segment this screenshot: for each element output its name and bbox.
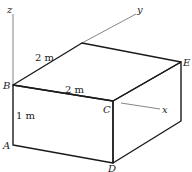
height-dimension-label: 1 m <box>16 110 36 121</box>
z-axis-label: z <box>6 4 13 15</box>
box-diagram: z y x B A C D E 2 m 2 m 1 m <box>0 0 192 172</box>
right-face <box>113 62 181 163</box>
point-d-label: D <box>107 163 116 172</box>
point-b-label: B <box>2 80 10 91</box>
x-axis-label: x <box>162 104 168 115</box>
width-dimension-label: 2 m <box>65 84 85 95</box>
y-axis <box>82 14 136 43</box>
point-e-label: E <box>182 57 191 68</box>
point-c-label: C <box>103 104 111 115</box>
point-a-label: A <box>2 140 10 151</box>
front-face <box>13 85 113 163</box>
x-axis <box>121 103 160 109</box>
depth-dimension-label: 2 m <box>35 52 55 63</box>
y-axis-label: y <box>136 4 143 15</box>
